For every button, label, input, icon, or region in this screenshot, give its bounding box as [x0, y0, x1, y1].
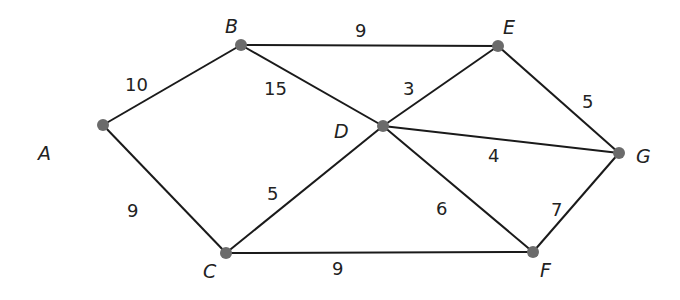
node-c	[220, 247, 232, 259]
edge-a-c	[103, 125, 226, 253]
edge-weight-c-d: 5	[267, 183, 278, 204]
node-label-d: D	[334, 120, 349, 142]
edge-weight-d-e: 3	[403, 78, 414, 99]
node-label-c: C	[203, 260, 217, 282]
weighted-graph-diagram: 1099153545679 ABCDEFG	[0, 0, 680, 300]
edge-c-f	[226, 252, 533, 253]
nodes-group	[97, 39, 625, 259]
edge-b-d	[241, 45, 383, 126]
node-label-b: B	[225, 15, 238, 37]
edge-d-f	[383, 126, 533, 252]
node-e	[492, 40, 504, 52]
node-g	[613, 147, 625, 159]
node-d	[377, 120, 389, 132]
weights-group: 1099153545679	[125, 20, 593, 279]
edge-d-e	[383, 46, 498, 126]
node-a	[97, 119, 109, 131]
node-label-a: A	[36, 142, 51, 164]
edge-weight-f-g: 7	[551, 199, 562, 220]
edge-d-g	[383, 126, 619, 153]
node-labels-group: ABCDEFG	[36, 15, 651, 282]
edge-weight-e-g: 5	[582, 91, 593, 112]
edges-group	[103, 45, 619, 253]
node-label-g: G	[636, 145, 651, 167]
edge-c-d	[226, 126, 383, 253]
edge-weight-a-c: 9	[127, 200, 138, 221]
edge-a-b	[103, 45, 241, 125]
node-b	[235, 39, 247, 51]
node-f	[527, 246, 539, 258]
edge-weight-b-d: 15	[264, 78, 287, 99]
edge-f-g	[533, 153, 619, 252]
edge-weight-b-e: 9	[355, 20, 366, 41]
edge-weight-a-b: 10	[125, 74, 148, 95]
edge-b-e	[241, 45, 498, 46]
edge-weight-d-g: 4	[488, 145, 499, 166]
edge-weight-c-f: 9	[332, 258, 343, 279]
edge-weight-d-f: 6	[436, 198, 447, 219]
node-label-e: E	[503, 16, 515, 38]
edge-e-g	[498, 46, 619, 153]
node-label-f: F	[540, 259, 552, 281]
